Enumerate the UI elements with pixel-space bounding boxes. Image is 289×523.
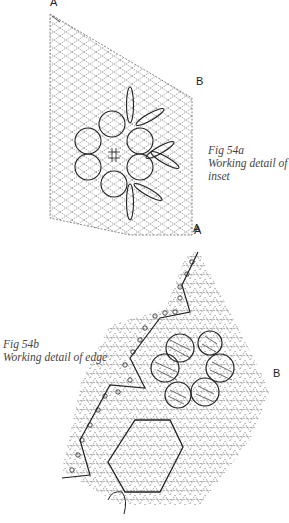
fig-54a-number: Fig 54a <box>208 144 287 157</box>
fig-54b-number: Fig 54b <box>3 338 107 351</box>
fig-54a-label-b: B <box>196 75 203 87</box>
lace-diagrams <box>0 0 289 523</box>
fig-54b-text: Working detail of edge <box>3 351 107 364</box>
fig-54b-label-a: A <box>193 222 200 234</box>
fig-54a-text-2: inset <box>208 170 287 183</box>
fig-54b-label-b: B <box>273 367 280 379</box>
fig-54b-caption: Fig 54b Working detail of edge <box>3 338 107 364</box>
fig-54a-label-a-top: A <box>50 0 57 8</box>
fig-54b-diagram <box>62 250 270 514</box>
fig-54a-diagram <box>50 14 192 235</box>
fig-54a-text-1: Working detail of <box>208 157 287 170</box>
fig-54a-caption: Fig 54a Working detail of inset <box>208 144 287 183</box>
